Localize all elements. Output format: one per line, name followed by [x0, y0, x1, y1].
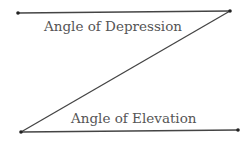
angle-diagram: Angle of Depression Angle of Elevation — [0, 0, 250, 143]
top-horizontal-line — [18, 11, 230, 13]
point-top-left — [16, 11, 20, 15]
angle-of-elevation-label: Angle of Elevation — [70, 110, 197, 126]
bottom-horizontal-line — [21, 130, 238, 132]
point-bottom-left — [19, 130, 23, 134]
angle-of-depression-label: Angle of Depression — [43, 18, 182, 34]
point-bottom-right — [236, 128, 240, 132]
point-top-right — [228, 9, 232, 13]
